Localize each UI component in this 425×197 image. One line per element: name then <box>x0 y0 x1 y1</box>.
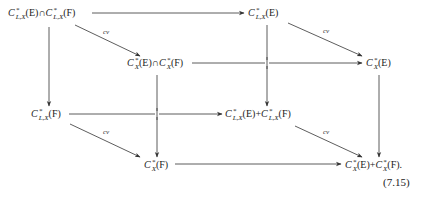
edge-label-E-G: cv <box>103 128 109 136</box>
node-C-base2: C <box>159 57 166 68</box>
node-C-base: C <box>127 57 134 68</box>
node-F-arg: (E) <box>243 108 256 119</box>
node-C-arg: (E) <box>139 57 152 68</box>
node-A-base: C <box>8 7 15 18</box>
node-B-base: C <box>248 7 255 18</box>
node-A-base2: C <box>46 7 53 18</box>
node-D: C*X(E) <box>366 57 391 71</box>
node-F-arg2: (F) <box>279 108 291 119</box>
node-F-base2: C <box>261 108 268 119</box>
node-E-base: C <box>31 108 38 119</box>
node-F-sub2: L,X <box>269 115 279 122</box>
node-H-base2: C <box>375 159 382 170</box>
node-A-arg2: (F) <box>63 7 75 18</box>
node-E-arg: (F) <box>49 108 61 119</box>
edge-label-A-C: cv <box>103 28 109 36</box>
node-A-sub: L,X <box>16 14 26 21</box>
node-C-arg2: (F) <box>171 57 183 68</box>
node-H-base: C <box>345 159 352 170</box>
node-H-arg2: (F) <box>387 159 399 170</box>
node-C: C*X(E)∩C*X(F) <box>127 57 183 71</box>
node-F-base: C <box>225 108 232 119</box>
edge-label-F-H: cv <box>323 128 329 136</box>
node-C-op: ∩ <box>152 57 159 68</box>
node-A: C*L,X(E)∩C*L,X(F) <box>8 7 75 21</box>
node-A-arg: (E) <box>26 7 39 18</box>
node-G-base: C <box>144 159 151 170</box>
node-G-arg: (F) <box>156 159 168 170</box>
node-A-sub2: L,X <box>53 14 63 21</box>
node-E-sub: L,X <box>39 115 49 122</box>
node-H-arg: (E) <box>357 159 370 170</box>
node-H-period: . <box>400 159 403 170</box>
node-B-arg: (E) <box>266 7 279 18</box>
edge-label-B-D: cv <box>323 27 329 35</box>
node-E: C*L,X(F) <box>31 108 61 122</box>
node-D-base: C <box>366 57 373 68</box>
node-H: C*X(E)+C*X(F). <box>345 159 402 173</box>
equation-number: (7.15) <box>383 176 410 188</box>
node-B: C*L,X(E) <box>248 7 278 21</box>
node-G: C*X(F) <box>144 159 168 173</box>
node-F-sub: L,X <box>233 115 243 122</box>
node-A-op: ∩ <box>38 7 45 18</box>
node-F: C*L,X(E)+C*L,X(F) <box>225 108 291 122</box>
node-B-sub: L,X <box>256 14 266 21</box>
node-D-arg: (E) <box>378 57 391 68</box>
